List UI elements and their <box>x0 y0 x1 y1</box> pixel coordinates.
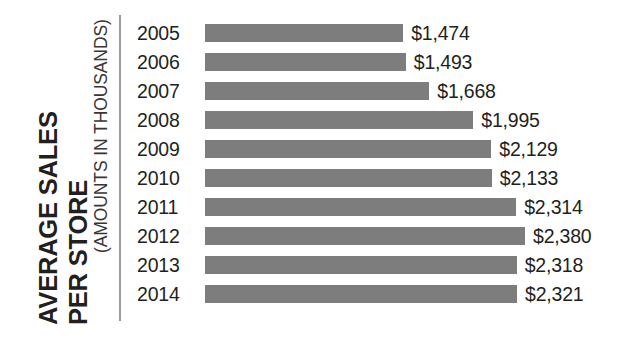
bar-2009 <box>205 140 491 158</box>
value-label-2006: $1,493 <box>414 50 472 73</box>
bar-2011 <box>205 198 516 216</box>
category-label-2010: 2010 <box>137 166 180 189</box>
category-label-2008: 2008 <box>137 108 180 131</box>
bar-row: 2005$1,474 <box>0 18 633 47</box>
category-label-2013: 2013 <box>137 253 180 276</box>
value-label-2010: $2,133 <box>500 166 558 189</box>
bar-chart: AVERAGE SALES PER STORE (AMOUNTS IN THOU… <box>0 0 633 341</box>
bar-row: 2012$2,380 <box>0 221 633 250</box>
bar-2008 <box>205 111 473 129</box>
bar-row: 2009$2,129 <box>0 134 633 163</box>
bar-row: 2011$2,314 <box>0 192 633 221</box>
bar-2014 <box>205 285 517 303</box>
value-label-2008: $1,995 <box>481 108 539 131</box>
value-label-2005: $1,474 <box>411 21 469 44</box>
category-label-2006: 2006 <box>137 50 180 73</box>
bar-2006 <box>205 53 406 71</box>
bar-row: 2007$1,668 <box>0 76 633 105</box>
category-label-2009: 2009 <box>137 137 180 160</box>
value-label-2013: $2,318 <box>525 253 583 276</box>
category-label-2011: 2011 <box>137 195 178 218</box>
value-label-2007: $1,668 <box>437 79 495 102</box>
category-label-2014: 2014 <box>137 282 180 305</box>
category-label-2012: 2012 <box>137 224 180 247</box>
value-label-2011: $2,314 <box>524 195 582 218</box>
value-label-2009: $2,129 <box>499 137 557 160</box>
bar-row: 2013$2,318 <box>0 250 633 279</box>
bar-2007 <box>205 82 429 100</box>
bar-row: 2006$1,493 <box>0 47 633 76</box>
bar-2005 <box>205 24 403 42</box>
bar-2012 <box>205 227 525 245</box>
bar-row: 2010$2,133 <box>0 163 633 192</box>
bar-2010 <box>205 169 492 187</box>
bar-2013 <box>205 256 517 274</box>
bar-rows: 2005$1,4742006$1,4932007$1,6682008$1,995… <box>0 0 633 341</box>
value-label-2012: $2,380 <box>533 224 591 247</box>
category-label-2007: 2007 <box>137 79 180 102</box>
category-label-2005: 2005 <box>137 21 180 44</box>
bar-row: 2014$2,321 <box>0 279 633 308</box>
value-label-2014: $2,321 <box>525 282 583 305</box>
bar-row: 2008$1,995 <box>0 105 633 134</box>
